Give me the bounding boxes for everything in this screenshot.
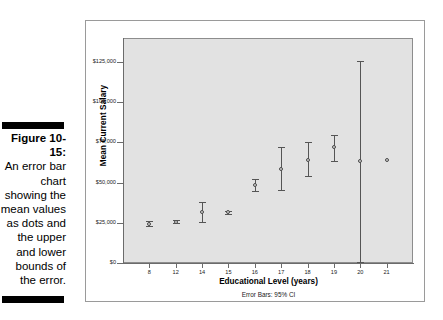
data-point-marker: [200, 210, 204, 214]
figure-caption-column: Figure 10-15: An error bar chart showing…: [0, 0, 72, 320]
x-axis-tick-label: 18: [298, 269, 318, 275]
x-axis-tick-label: 20: [350, 269, 370, 275]
y-axis-spine: [123, 38, 124, 264]
x-axis-tick-label: 12: [166, 269, 186, 275]
error-bar-cap-upper: [331, 135, 338, 136]
x-axis-tick: [360, 264, 361, 268]
x-axis-title: Educational Level (years): [123, 277, 414, 286]
error-bar-cap-lower: [146, 226, 153, 227]
x-axis-tick-label: 19: [324, 269, 344, 275]
error-bar-cap-lower: [252, 191, 259, 192]
error-bar-cap-upper: [252, 179, 259, 180]
y-axis-tick: [117, 183, 123, 184]
y-axis-tick: [117, 142, 123, 143]
figure-caption-label: Figure 10-15:: [0, 131, 66, 159]
figure-frame: $0$25,000$50,000$75,000$100,000$125,000 …: [85, 20, 425, 302]
error-bar-cap-upper: [305, 142, 312, 143]
x-axis-tick-label: 17: [271, 269, 291, 275]
x-axis-tick: [255, 264, 256, 268]
error-bar-cap-upper: [357, 61, 364, 62]
x-axis-tick: [228, 264, 229, 268]
figure-caption: Figure 10-15: An error bar chart showing…: [0, 131, 66, 287]
x-axis-tick: [281, 264, 282, 268]
error-bar-cap-lower: [305, 176, 312, 177]
data-point-marker: [385, 158, 389, 162]
error-bar-chart: $0$25,000$50,000$75,000$100,000$125,000 …: [86, 21, 426, 303]
x-axis-tick: [176, 264, 177, 268]
x-axis-tick-label: 15: [218, 269, 238, 275]
y-axis-tick: [117, 102, 123, 103]
x-axis-tick: [334, 264, 335, 268]
data-point-marker: [306, 158, 310, 162]
x-axis-tick-label: 8: [139, 269, 159, 275]
caption-rule-bottom: [2, 296, 64, 303]
y-axis-tick: [117, 263, 123, 264]
x-axis-tick-label: 14: [192, 269, 212, 275]
x-axis-spine: [123, 263, 414, 264]
data-point-marker: [279, 167, 283, 171]
error-bar-cap-lower: [225, 214, 232, 215]
x-axis-tick: [308, 264, 309, 268]
x-axis-tick: [387, 264, 388, 268]
x-axis-tick-label: 21: [377, 269, 397, 275]
y-axis-tick: [117, 223, 123, 224]
y-axis-title: Mean Current Salary: [99, 66, 108, 186]
data-point-marker: [174, 220, 178, 224]
error-bar-cap-lower: [199, 222, 206, 223]
error-bar-cap-upper: [278, 147, 285, 148]
y-axis-tick: [117, 62, 123, 63]
error-bar-cap-lower: [357, 262, 364, 263]
data-point-marker: [332, 145, 336, 149]
error-bar-cap-lower: [331, 161, 338, 162]
error-bar-cap-upper: [199, 202, 206, 203]
caption-rule-top: [2, 122, 64, 129]
error-bar-cap-lower: [278, 190, 285, 191]
data-point-marker: [358, 159, 362, 163]
figure-caption-body: An error bar chart showing the mean valu…: [0, 159, 66, 287]
x-axis-tick: [149, 264, 150, 268]
error-bars-annotation: Error Bars: 95% CI: [123, 291, 414, 298]
x-axis-tick-label: 16: [245, 269, 265, 275]
plot-area: [123, 38, 413, 263]
data-point-marker: [253, 183, 257, 187]
x-axis-tick: [202, 264, 203, 268]
